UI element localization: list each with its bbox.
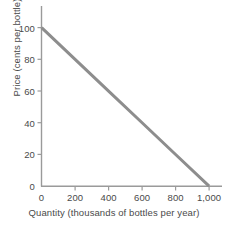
x-tick-label-600: 600	[134, 192, 150, 203]
y-tick-label-40: 40	[2, 117, 35, 128]
x-tick-label-0: 0	[39, 192, 44, 203]
y-axis-title: Price (cents per bottle)	[11, 0, 22, 108]
demand-curve-line	[42, 28, 210, 187]
x-tick-label-200: 200	[67, 192, 83, 203]
y-tick-label-20: 20	[2, 149, 35, 160]
demand-curve-chart: 0 20 40 60 80 100 0 200 400 600 800 1,00…	[0, 0, 228, 226]
x-tick-label-400: 400	[101, 192, 117, 203]
y-tick-label-0: 0	[2, 181, 35, 192]
x-tick-label-800: 800	[168, 192, 184, 203]
x-axis-title: Quantity (thousands of bottles per year)	[0, 207, 228, 218]
x-tick-label-1000: 1,000	[197, 192, 221, 203]
